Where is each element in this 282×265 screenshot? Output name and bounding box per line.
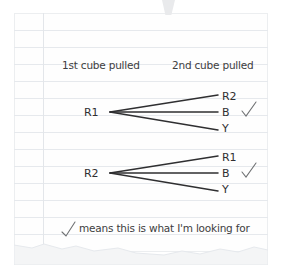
rule-line — [14, 81, 268, 82]
tree-2-root-label: R2 — [84, 167, 98, 180]
paper-sheet — [14, 13, 268, 252]
rule-line — [14, 217, 268, 218]
rule-line — [14, 183, 268, 184]
footnote-text: means this is what I'm looking for — [79, 222, 250, 234]
tree-2-leaf-label-2: Y — [222, 183, 229, 196]
notebook-page: 1st cube pulled 2nd cube pulled R1 R2 B … — [0, 0, 282, 265]
rule-line — [14, 166, 268, 167]
tree-2-leaf-label-1: B — [222, 167, 229, 180]
rule-line — [14, 115, 268, 116]
tree-1-leaf-label-1: B — [222, 106, 229, 119]
rule-line — [14, 30, 268, 31]
rule-line — [14, 200, 268, 201]
tree-1-root-label: R1 — [84, 106, 98, 119]
rule-line — [14, 132, 268, 133]
rule-line — [14, 234, 268, 235]
rule-line — [14, 47, 268, 48]
rule-line — [14, 149, 268, 150]
tree-1-leaf-label-2: Y — [222, 122, 229, 135]
column-heading-second: 2nd cube pulled — [172, 59, 254, 71]
torn-edge — [14, 243, 268, 265]
margin-rule-line — [43, 13, 44, 252]
column-heading-first: 1st cube pulled — [62, 59, 140, 71]
tree-2-leaf-label-0: R1 — [222, 151, 236, 164]
tree-1-leaf-label-0: R2 — [222, 90, 236, 103]
